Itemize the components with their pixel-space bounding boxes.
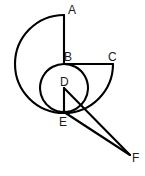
point-label-e: E [59,116,67,128]
point-label-d: D [60,76,69,88]
point-label-b: B [64,51,72,63]
geometry-figure: A B C D E F [0,0,145,176]
segment-D-F [64,88,130,155]
geometry-canvas [0,0,145,176]
point-label-f: F [132,152,139,164]
semicircle-A-to-E [15,15,64,113]
point-label-a: A [68,4,76,16]
point-label-c: C [108,51,117,63]
segment-E-F [64,112,130,155]
